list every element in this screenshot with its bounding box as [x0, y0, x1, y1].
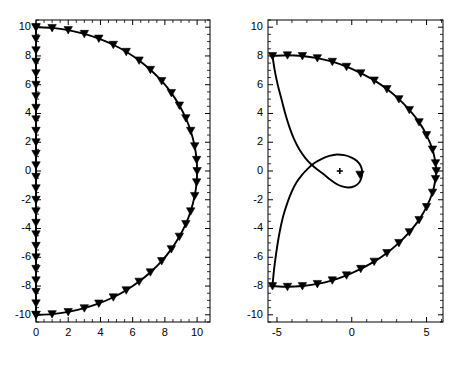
axes-frame: [36, 20, 210, 322]
data-marker: [32, 162, 40, 169]
series-line-inner-spiral-upper: [272, 56, 362, 286]
plot-panel-left: 0246810-10-8-6-4-20246810: [0, 0, 230, 371]
data-marker: [192, 156, 200, 163]
data-marker: [32, 231, 40, 238]
data-marker: [32, 47, 40, 54]
y-tick-label: 8: [257, 49, 263, 61]
data-marker: [190, 192, 198, 199]
data-marker: [109, 294, 117, 301]
series-line-closed-arc: [36, 27, 197, 315]
y-tick-label: 6: [25, 78, 31, 90]
data-marker: [182, 220, 190, 227]
x-tick-label: 8: [162, 326, 168, 338]
y-tick-label: 2: [257, 135, 263, 147]
data-marker: [32, 288, 40, 295]
y-tick-label: -8: [21, 279, 31, 291]
data-marker: [32, 116, 40, 123]
y-tick-label: 2: [25, 135, 31, 147]
y-tick-label: 10: [251, 20, 263, 32]
data-marker: [122, 287, 130, 294]
y-tick-label: -6: [253, 250, 263, 262]
series-line-outer-contour: [272, 55, 436, 287]
marker-group: [32, 24, 202, 319]
y-tick-label: 8: [25, 49, 31, 61]
x-tick-label: 4: [97, 326, 103, 338]
data-marker: [193, 168, 201, 175]
x-tick-label: 5: [423, 326, 429, 338]
y-tick-label: 6: [257, 78, 263, 90]
y-tick-label: 4: [25, 106, 31, 118]
axes-box-group: 0246810-10-8-6-4-20246810: [15, 20, 210, 338]
data-marker: [357, 265, 365, 272]
data-series-group: [36, 27, 197, 315]
x-tick-label: 2: [65, 326, 71, 338]
data-marker: [32, 242, 40, 249]
x-tick-label: 6: [130, 326, 136, 338]
right-plot-svg: -505-10-8-6-4-20246810: [230, 0, 460, 371]
data-marker: [32, 219, 40, 226]
data-marker: [32, 104, 40, 111]
data-marker: [32, 300, 40, 307]
y-tick-label: 0: [25, 164, 31, 176]
data-marker: [186, 127, 194, 134]
marker-group: [268, 52, 440, 291]
y-axis-ticks: -10-8-6-4-20246810: [15, 20, 210, 322]
plot-panel-right: -505-10-8-6-4-20246810: [230, 0, 460, 371]
data-marker: [109, 41, 117, 48]
y-tick-label: 0: [257, 164, 263, 176]
data-marker: [32, 58, 40, 65]
y-tick-label: -10: [247, 308, 263, 320]
data-marker: [431, 175, 439, 182]
x-tick-label: 0: [33, 326, 39, 338]
x-tick-label: 10: [191, 326, 203, 338]
y-tick-label: -10: [15, 308, 31, 320]
x-axis-ticks: 0246810: [33, 20, 205, 338]
data-marker: [32, 185, 40, 192]
data-marker: [428, 146, 436, 153]
data-marker: [32, 70, 40, 77]
data-marker: [175, 102, 183, 109]
data-marker: [192, 179, 200, 186]
data-marker: [32, 277, 40, 284]
y-tick-label: 10: [19, 20, 31, 32]
y-tick-label: -2: [253, 193, 263, 205]
y-tick-label: 4: [257, 106, 263, 118]
y-tick-label: -4: [21, 221, 31, 233]
matlab-figure: 0246810-10-8-6-4-20246810 -505-10-8-6-4-…: [0, 0, 460, 371]
y-tick-label: -2: [21, 193, 31, 205]
data-marker: [431, 160, 439, 167]
x-axis-ticks: -505: [272, 20, 441, 338]
data-marker: [422, 204, 430, 211]
data-series-group: [272, 55, 436, 287]
data-marker: [32, 173, 40, 180]
y-tick-label: -6: [21, 250, 31, 262]
data-marker: [32, 127, 40, 134]
y-tick-label: -4: [253, 221, 263, 233]
data-marker: [182, 115, 190, 122]
data-marker: [190, 143, 198, 150]
data-marker: [175, 233, 183, 240]
data-marker: [357, 70, 365, 77]
data-marker: [186, 208, 194, 215]
center-plus-marker: [337, 168, 343, 174]
data-marker: [428, 189, 436, 196]
x-tick-label: 0: [349, 326, 355, 338]
x-tick-label: -5: [272, 326, 282, 338]
data-marker: [422, 132, 430, 139]
y-tick-label: -8: [253, 279, 263, 291]
data-marker: [370, 258, 378, 265]
left-plot-svg: 0246810-10-8-6-4-20246810: [0, 0, 230, 371]
